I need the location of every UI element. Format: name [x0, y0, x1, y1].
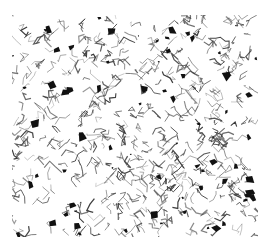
grain-texture	[12, 15, 258, 237]
micrograph-image	[12, 15, 258, 237]
